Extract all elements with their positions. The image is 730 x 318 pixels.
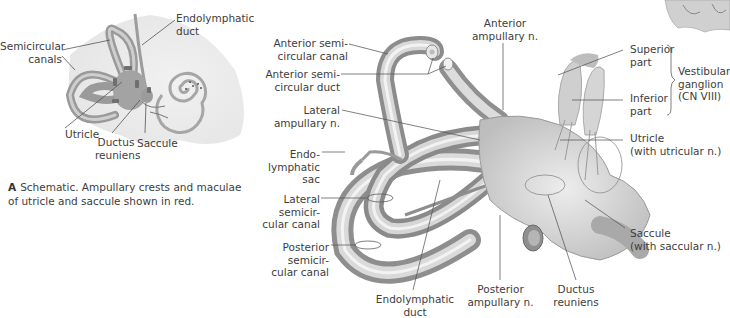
label-anterior-ampullary-n: Anterior ampullary n. — [465, 17, 545, 42]
caption-text: Schematic. Ampullary crests and maculae … — [8, 181, 241, 207]
label-posterior-semicircular-canal: Posterior semicir- cular canal — [250, 241, 329, 279]
label-ductus-reuniens-a: Ductus reuniens — [95, 136, 137, 161]
label-anterior-semicircular-duct: Anterior semi- circular duct — [250, 68, 340, 93]
label-vestibular-ganglion: Vestibular ganglion (CN VIII) — [678, 65, 730, 103]
label-anterior-semicircular-canal: Anterior semi- circular canal — [250, 37, 348, 62]
label-utricle-b: Utricle (with utricular n.) — [630, 132, 721, 157]
figure-a-caption: ASchematic. Ampullary crests and maculae… — [8, 180, 241, 208]
caption-letter: A — [8, 181, 16, 193]
label-posterior-ampullary-n: Posterior ampullary n. — [463, 283, 538, 308]
label-lateral-ampullary-n: Lateral ampullary n. — [250, 104, 340, 129]
label-superior-part: Superior part — [630, 43, 674, 68]
label-lateral-semicircular-canal: Lateral semicir- cular canal — [250, 193, 320, 231]
label-semicircular-canals: Semicircular canals — [0, 40, 62, 65]
label-endolymphatic-duct-a: Endolymphatic duct — [176, 12, 254, 37]
label-endolymphatic-duct-b: Endolymphatic duct — [365, 293, 465, 318]
label-ductus-reuniens-b: Ductus reuniens — [551, 283, 601, 308]
label-saccule-a: Saccule — [137, 137, 178, 150]
label-inferior-part: Inferior part — [630, 92, 668, 117]
label-saccule-b: Saccule (with saccular n.) — [630, 227, 721, 252]
label-endolymphatic-sac: Endo- lymphatic sac — [250, 148, 320, 186]
